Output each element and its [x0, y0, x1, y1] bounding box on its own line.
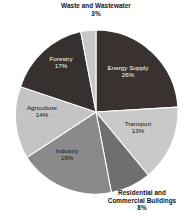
pie-label-forestry-value: 17%: [36, 62, 86, 69]
pie-label-residential-commercial-buildings-value: 8%: [92, 204, 192, 212]
pie-label-agriculture-name: Agriculture: [27, 104, 57, 111]
pie-label-forestry: Forestry 17%: [36, 55, 86, 70]
pie-label-industry-name: Industry: [56, 147, 78, 154]
pie-label-industry-value: 19%: [42, 154, 92, 161]
pie-label-energy-supply-value: 26%: [98, 71, 158, 78]
pie-label-industry: Industry 19%: [42, 147, 92, 162]
pie-label-residential-commercial-buildings-name: Residential and: [118, 189, 166, 196]
pie-label-energy-supply: Energy Supply 26%: [98, 64, 158, 79]
pie-label-energy-supply-name: Energy Supply: [108, 64, 149, 71]
pie-label-agriculture-value: 14%: [14, 111, 70, 118]
pie-label-waste-and-wastewater-value: 3%: [42, 10, 150, 18]
pie-label-transport-name: Transport: [125, 120, 152, 127]
pie-label-transport-value: 13%: [112, 127, 164, 134]
pie-label-forestry-name: Forestry: [49, 55, 72, 62]
pie-label-waste-and-wastewater-name: Waste and Wastewater: [61, 2, 131, 9]
pie-label-residential-commercial-buildings-name2: Commercial Buildings: [108, 197, 176, 204]
pie-label-transport: Transport 13%: [112, 120, 164, 135]
pie-chart: Waste and Wastewater 3% Energy Supply 26…: [0, 0, 192, 221]
pie-label-waste-and-wastewater: Waste and Wastewater 3%: [42, 2, 150, 17]
pie-label-agriculture: Agriculture 14%: [14, 104, 70, 119]
pie-label-residential-commercial-buildings: Residential and Commercial Buildings 8%: [92, 189, 192, 212]
